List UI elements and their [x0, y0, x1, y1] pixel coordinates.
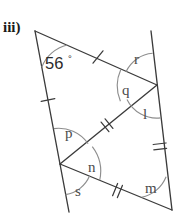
angle-label-r: r	[134, 51, 139, 67]
degree-symbol-icon: °	[68, 53, 72, 64]
angle-label-n: n	[88, 159, 96, 175]
angle-label-s: s	[75, 183, 81, 199]
angle-label-l: l	[143, 106, 147, 122]
angle-label-56: 56	[45, 54, 63, 72]
angle-label-p: p	[65, 125, 73, 141]
label-layer: iii) 56 ° r q l p n s m	[0, 0, 183, 218]
item-number-label: iii)	[3, 19, 21, 36]
geometry-figure: iii) 56 ° r q l p n s m	[0, 0, 183, 218]
angle-label-m: m	[145, 180, 157, 196]
angle-label-q: q	[122, 82, 130, 98]
